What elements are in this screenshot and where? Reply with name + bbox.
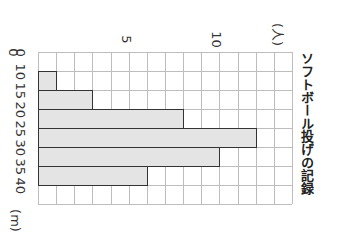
x-tick-label: 0	[14, 49, 27, 57]
x-unit-label: (m)	[9, 209, 22, 232]
x-tick-label: 10	[14, 64, 27, 80]
grid-line-horizontal	[38, 204, 292, 205]
y-tick-5: 5	[120, 35, 133, 43]
histogram-bar	[38, 90, 93, 110]
histogram-bar	[38, 147, 220, 167]
x-tick-label: 35	[14, 159, 27, 175]
histogram-bar	[38, 166, 148, 186]
grid-line-horizontal	[38, 52, 292, 53]
y-tick-10: 10	[210, 31, 223, 48]
grid-line-horizontal	[38, 71, 292, 72]
x-tick-label: 25	[14, 121, 27, 137]
grid-line-vertical	[292, 52, 293, 204]
histogram-chart: 0 5 10 (人) 010152025303540 (m) ソフトボール投げの…	[0, 0, 339, 238]
x-tick-label: 30	[14, 140, 27, 156]
x-tick-label: 40	[14, 178, 27, 194]
chart-title: ソフトボール投げの記録	[297, 52, 316, 195]
histogram-bar	[38, 71, 57, 91]
x-tick-label: 20	[14, 102, 27, 118]
histogram-bar	[38, 109, 184, 129]
x-tick-label: 15	[14, 83, 27, 99]
histogram-bar	[38, 128, 257, 148]
y-unit-label: (人)	[271, 23, 284, 46]
